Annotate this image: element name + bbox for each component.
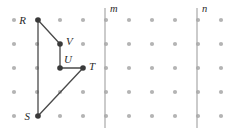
grid-dot xyxy=(150,66,154,70)
grid-dot xyxy=(12,18,16,22)
grid-dot xyxy=(219,90,223,94)
point-r-label: R xyxy=(18,14,26,26)
grid-dot xyxy=(150,18,154,22)
label-layer: mnRVUTS xyxy=(18,3,207,122)
line-m-label: m xyxy=(110,3,118,14)
grid-dot xyxy=(219,114,223,118)
grid-dot xyxy=(127,114,131,118)
grid-dot xyxy=(219,18,223,22)
grid-dot xyxy=(173,90,177,94)
grid-dot xyxy=(219,42,223,46)
grid-dot xyxy=(12,90,16,94)
grid-dot xyxy=(127,18,131,22)
grid-dot xyxy=(127,90,131,94)
grid-dot xyxy=(219,66,223,70)
grid-dot xyxy=(58,114,62,118)
grid-dot xyxy=(173,66,177,70)
point-u xyxy=(57,65,63,71)
grid-dot xyxy=(173,18,177,22)
grid-dot-layer xyxy=(12,18,223,118)
grid-dot xyxy=(81,90,85,94)
line-n-label: n xyxy=(202,3,207,14)
grid-dot xyxy=(127,42,131,46)
grid-dot xyxy=(150,42,154,46)
point-u-label: U xyxy=(64,53,73,65)
grid-dot xyxy=(150,114,154,118)
grid-dot xyxy=(127,66,131,70)
edge-rv xyxy=(38,20,60,44)
grid-dot xyxy=(173,114,177,118)
point-t xyxy=(80,65,86,71)
edge-ts xyxy=(38,68,83,116)
grid-dot xyxy=(12,66,16,70)
dot-grid-diagram: mnRVUTS xyxy=(0,0,229,133)
grid-dot xyxy=(58,18,62,22)
point-s-label: S xyxy=(25,110,31,122)
point-r xyxy=(35,17,41,23)
point-s xyxy=(35,113,41,119)
point-v-label: V xyxy=(66,35,74,47)
grid-dot xyxy=(12,114,16,118)
grid-dot xyxy=(12,42,16,46)
point-t-label: T xyxy=(89,60,96,72)
point-v xyxy=(57,41,63,47)
grid-dot xyxy=(81,114,85,118)
grid-dot xyxy=(150,90,154,94)
grid-dot xyxy=(173,42,177,46)
geometry-figure: mnRVUTS xyxy=(0,0,229,133)
grid-dot xyxy=(81,18,85,22)
grid-dot xyxy=(81,42,85,46)
